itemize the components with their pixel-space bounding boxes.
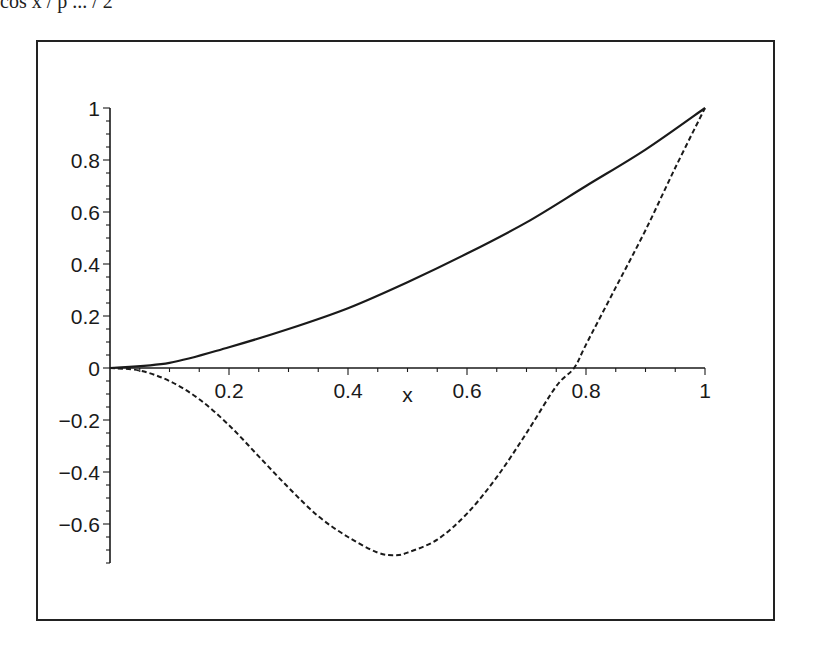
y-tick-label: 0.4 [71, 253, 101, 276]
y-tick-label: 0.6 [71, 201, 100, 224]
y-tick-label: 1 [88, 97, 100, 120]
series-group [110, 108, 705, 555]
y-tick-label: −0.2 [59, 409, 100, 432]
y-tick-label: 0.8 [71, 149, 100, 172]
x-tick-label: 0.4 [333, 379, 363, 402]
y-tick-label: −0.4 [59, 461, 101, 484]
x-tick-label: 1 [699, 379, 711, 402]
y-tick-label: 0 [88, 357, 100, 380]
solid-series-line [110, 108, 705, 368]
axes [110, 108, 705, 563]
tick-labels: 10.80.60.40.20−0.2−0.4−0.60.20.40.60.81 [59, 97, 711, 536]
chart-canvas: 10.80.60.40.20−0.2−0.4−0.60.20.40.60.81 … [0, 0, 813, 652]
y-tick-label: 0.2 [71, 305, 100, 328]
x-tick-label: 0.2 [214, 379, 243, 402]
ticks [103, 108, 705, 563]
y-tick-label: −0.6 [59, 513, 100, 536]
x-tick-label: 0.6 [452, 379, 481, 402]
dashed-series-line [110, 108, 705, 555]
x-axis-label: x [402, 383, 413, 406]
x-tick-label: 0.8 [571, 379, 600, 402]
